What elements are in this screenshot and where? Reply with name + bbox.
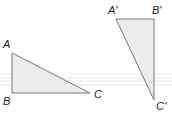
label-c-prime: C' — [156, 100, 167, 112]
triangle-abc — [12, 53, 90, 93]
label-b-prime: B' — [152, 4, 162, 16]
label-c: C — [94, 88, 102, 100]
label-a: A — [2, 38, 10, 50]
diagram-canvas: A B C A' B' C' — [0, 0, 172, 114]
label-b: B — [3, 95, 10, 107]
label-a-prime: A' — [107, 4, 118, 16]
triangle-a-prime-b-prime-c-prime — [116, 19, 154, 100]
